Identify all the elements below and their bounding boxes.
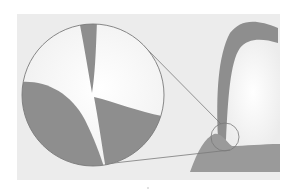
stray-dot <box>147 187 149 189</box>
diagram-canvas <box>0 0 296 191</box>
